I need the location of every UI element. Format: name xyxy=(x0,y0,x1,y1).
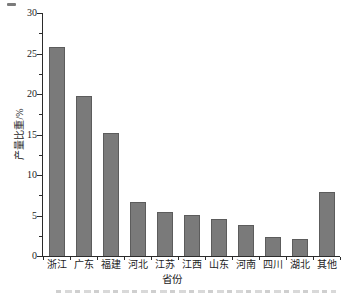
bar-广东 xyxy=(76,96,92,256)
x-category-label: 四川 xyxy=(259,259,286,271)
y-major-tick xyxy=(37,54,42,55)
x-category-label: 江苏 xyxy=(151,259,178,271)
y-major-tick xyxy=(37,175,42,176)
bar-河南 xyxy=(238,225,254,256)
y-tick-label: 30 xyxy=(7,8,37,18)
y-minor-tick xyxy=(39,195,42,196)
y-major-tick xyxy=(37,135,42,136)
bar-浙江 xyxy=(49,47,65,256)
x-axis-title: 省份 xyxy=(162,271,182,286)
y-tick-label: 5 xyxy=(7,211,37,221)
y-minor-tick xyxy=(39,33,42,34)
x-category-label: 福建 xyxy=(97,259,124,271)
y-minor-tick xyxy=(39,236,42,237)
x-category-label: 浙江 xyxy=(43,259,70,271)
x-category-label: 湖北 xyxy=(286,259,313,271)
x-boundary-tick xyxy=(340,257,341,260)
y-axis-line xyxy=(42,13,43,257)
y-tick-label: 0 xyxy=(7,251,37,261)
bar-山东 xyxy=(211,219,227,256)
bar-chart-figure: 051015202530 浙江广东福建河北江苏江西山东河南四川湖北其他 产量比重… xyxy=(0,0,348,295)
x-category-label: 江西 xyxy=(178,259,205,271)
y-minor-tick xyxy=(39,74,42,75)
cropped-caption-remnant xyxy=(56,290,336,293)
y-major-tick xyxy=(37,13,42,14)
bar-四川 xyxy=(265,237,281,256)
x-category-label: 山东 xyxy=(205,259,232,271)
bar-湖北 xyxy=(292,239,308,256)
bar-江苏 xyxy=(157,212,173,256)
y-major-tick xyxy=(37,256,42,257)
scan-artifact-mark xyxy=(7,3,16,6)
y-minor-tick xyxy=(39,114,42,115)
bar-江西 xyxy=(184,215,200,256)
x-category-label: 其他 xyxy=(313,259,340,271)
y-tick-label: 25 xyxy=(7,49,37,59)
x-axis-line xyxy=(42,256,340,257)
plot-area: 051015202530 浙江广东福建河北江苏江西山东河南四川湖北其他 xyxy=(43,13,340,256)
x-category-label: 河北 xyxy=(124,259,151,271)
y-major-tick xyxy=(37,216,42,217)
y-minor-tick xyxy=(39,155,42,156)
bar-河北 xyxy=(130,202,146,256)
y-axis-title: 产量比重/% xyxy=(11,108,26,159)
bar-福建 xyxy=(103,133,119,256)
bar-其他 xyxy=(319,192,335,256)
x-category-label: 广东 xyxy=(70,259,97,271)
y-tick-label: 20 xyxy=(7,89,37,99)
x-category-label: 河南 xyxy=(232,259,259,271)
y-major-tick xyxy=(37,94,42,95)
y-tick-label: 10 xyxy=(7,170,37,180)
